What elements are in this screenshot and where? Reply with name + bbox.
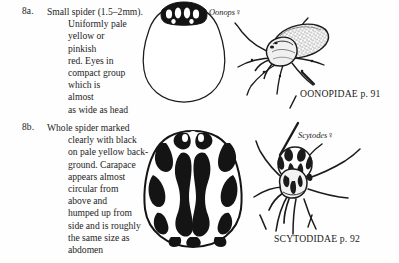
female-symbol-icon: ♀ [327, 130, 334, 140]
entry-body-8a: Uniformly pale yellow or pinkish red. Ey… [68, 18, 128, 114]
scytodes-carapace-pattern-drawing [141, 129, 245, 251]
key-page: 8a. Small spider (1.5–2mm).Uniformly pal… [0, 0, 399, 263]
pointer-lines-scytodidae [256, 213, 376, 239]
entry-label-8b: 8b. [22, 122, 34, 132]
pointer-line-scytodes [272, 121, 312, 159]
female-symbol-icon: ♀ [235, 7, 242, 17]
entry-body-8b: clearly with black on pale yellow back- … [68, 134, 148, 255]
oonops-eye-group-diagram [140, 2, 230, 107]
entry-label-8a: 8a. [22, 6, 34, 16]
genus-label-oonops: Oonops♀ [209, 7, 242, 17]
pointer-lines-oonopidae [280, 68, 399, 114]
genus-name-text: Oonops [209, 8, 235, 17]
